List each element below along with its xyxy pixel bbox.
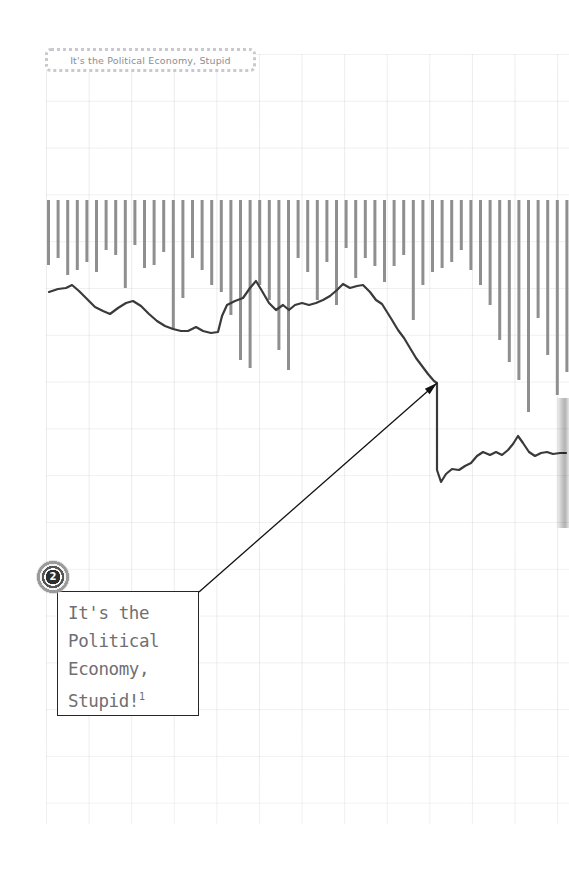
page-title: It's the Political Economy, Stupid [70,55,231,66]
bar [239,200,242,360]
bar [229,200,232,315]
callout-text: It's the Political Economy, Stupid!1 [68,599,198,715]
bar [508,200,511,362]
bar [421,200,424,285]
bar [172,200,175,330]
bar [268,200,271,300]
callout-leader-arrow [199,383,437,592]
bar [383,200,386,282]
bar [450,200,453,262]
bar [47,200,50,265]
bar [153,200,156,265]
bar [469,200,472,270]
bar [527,200,530,412]
chart-figure [0,0,569,878]
bar [85,200,88,262]
bar [210,200,213,285]
bar [181,200,184,298]
bar [498,200,501,340]
callout-box[interactable]: It's the Political Economy, Stupid!1 [57,591,199,716]
bar [364,200,367,258]
bar [201,200,204,270]
bar [277,200,280,350]
bar [297,200,300,258]
bar [402,200,405,255]
bar [306,200,309,272]
bar [556,200,559,395]
trend-line-series [49,281,566,482]
bar [133,200,136,245]
bar [95,200,98,272]
bar [258,200,261,285]
bar [441,200,444,268]
bar [412,200,415,320]
page-canvas: It's the Political Economy, Stupid It's … [0,0,569,878]
bar [431,200,434,272]
bar [249,200,252,368]
bar [373,200,376,266]
bar [76,200,79,270]
callout-badge-number: 2 [50,572,57,582]
page-title-chip: It's the Political Economy, Stupid [45,48,256,72]
bar [517,200,520,380]
bar [191,200,194,258]
bar [565,200,568,372]
bar [546,200,549,355]
callout-badge[interactable]: 2 [36,560,70,594]
bar [325,200,328,262]
bar [124,200,127,288]
bar [460,200,463,250]
bar [489,200,492,305]
bar [393,200,396,266]
bar [143,200,146,268]
bar [57,200,60,258]
bar [345,200,348,248]
bar [537,200,540,318]
bar [220,200,223,292]
bar [162,200,165,252]
bar [354,200,357,278]
bar [316,200,319,300]
bar [105,200,108,250]
bar [66,200,69,275]
callout-footnote-marker: 1 [139,691,145,702]
bar-series [47,200,568,412]
bar [287,200,290,370]
bar [479,200,482,285]
bar [114,200,117,255]
